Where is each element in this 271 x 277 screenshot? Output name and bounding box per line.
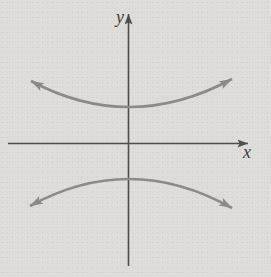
hyperbola-upper-branch	[31, 79, 232, 107]
hyperbola-lower-branch	[30, 179, 232, 208]
x-axis-label: x	[242, 142, 251, 162]
y-axis-label: y	[114, 7, 124, 27]
hyperbola-figure: y x	[0, 0, 271, 277]
plot-svg: y x	[0, 0, 271, 277]
